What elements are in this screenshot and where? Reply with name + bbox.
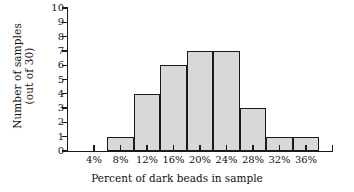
x-axis-ticks-and-labels: 4%8%12%16%20%24%28%32%36%: [67, 0, 332, 192]
x-axis-tick: [305, 145, 306, 152]
y-axis-tick-label: 6: [44, 60, 64, 70]
x-axis-tick: [146, 145, 147, 152]
y-axis-tick-labels: 012345678910: [43, 8, 64, 152]
y-axis-tick-label: 1: [44, 132, 64, 142]
y-axis-tick-label: 5: [44, 75, 64, 85]
x-axis-tick: [252, 145, 253, 152]
x-axis-tick: [226, 145, 227, 152]
y-axis-title-line1: Number of samples: [11, 23, 23, 129]
y-axis-tick-label: 8: [44, 32, 64, 42]
y-axis-title-line2: (out of 30): [23, 23, 35, 129]
x-axis-tick-label: 36%: [286, 155, 326, 165]
y-axis-tick-label: 3: [44, 103, 64, 113]
y-axis-tick-label: 4: [44, 89, 64, 99]
y-axis-tick-label: 0: [44, 146, 64, 156]
y-axis-title: Number of samples (out of 30): [0, 0, 46, 152]
x-axis-tick: [93, 145, 94, 152]
x-axis-tick: [173, 145, 174, 152]
x-axis-tick: [279, 145, 280, 152]
x-axis-tick: [199, 145, 200, 152]
y-axis-tick-label: 10: [44, 3, 64, 13]
y-axis-tick-label: 9: [44, 17, 64, 27]
y-axis-tick-label: 2: [44, 117, 64, 127]
x-axis-tick: [332, 145, 333, 152]
histogram-figure: Number of samples (out of 30) 0123456789…: [0, 0, 354, 192]
x-axis-title: Percent of dark beads in sample: [0, 172, 354, 184]
x-axis-tick: [120, 145, 121, 152]
y-axis-tick-label: 7: [44, 46, 64, 56]
